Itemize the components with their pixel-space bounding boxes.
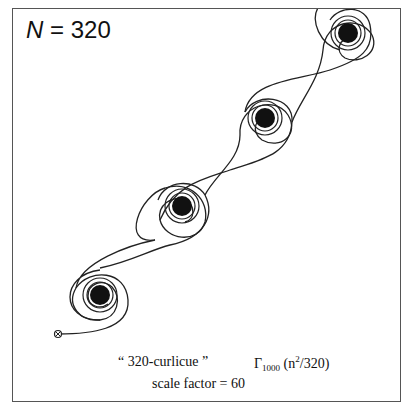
formula-arg-close: /320) [300,356,330,371]
start-marker-icon [55,331,62,338]
gamma-symbol: Γ [254,356,262,371]
formula-arg-open: (n [280,356,295,371]
gamma-subscript: 1000 [262,363,280,373]
spiral-cores [83,16,365,312]
gamma-formula: Γ1000 (n2/320) [254,354,329,373]
curlicue-name: “ 320-curlicue ” [118,354,208,370]
curlicue-curve [58,8,374,334]
scale-factor: scale factor = 60 [152,376,245,392]
